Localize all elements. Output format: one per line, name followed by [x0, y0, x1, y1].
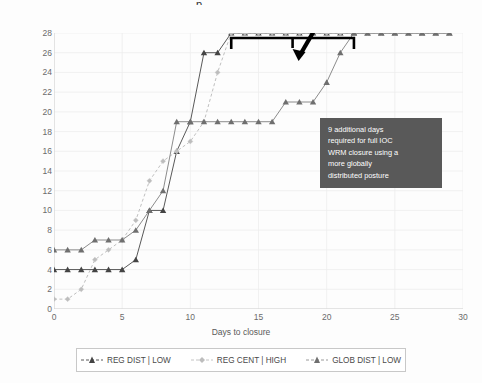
y-axis-tick: 8: [30, 226, 52, 234]
x-axis-tick: 15: [244, 313, 274, 322]
x-axis-tick: 5: [107, 313, 137, 322]
annotation-line-4: distributed posture: [328, 170, 434, 181]
x-axis-tick: 25: [380, 313, 410, 322]
y-axis-tick: 16: [30, 147, 52, 155]
x-axis-title: Days to closure: [0, 327, 482, 337]
data-point-marker: [65, 297, 70, 302]
chart-canvas: p 0246810121416182022242628 Number of ba…: [0, 0, 482, 383]
x-axis-tick: 10: [175, 313, 205, 322]
data-point-marker: [215, 70, 220, 75]
y-axis-tick: 14: [30, 167, 52, 175]
y-axis-tick: 6: [30, 246, 52, 254]
cropped-title: p: [196, 0, 206, 5]
annotation-line-1: required for full IOC: [328, 135, 434, 146]
data-point-marker: [54, 297, 57, 302]
legend-item-reg-dist-low[interactable]: REG DIST | LOW: [81, 355, 171, 365]
annotation-bracket: [231, 38, 354, 49]
annotation-line-2: WRM closure using a: [328, 147, 434, 158]
annotation-line-0: 9 additional days: [328, 124, 434, 135]
annotation-callout: 9 additional days required for full IOC …: [320, 118, 442, 188]
y-axis-tick: 4: [30, 266, 52, 274]
y-axis-tick: 18: [30, 128, 52, 136]
y-axis-tick: 0: [30, 305, 52, 313]
data-point-marker: [133, 218, 138, 223]
x-axis-tick: 20: [312, 313, 342, 322]
y-axis-tick: 22: [30, 88, 52, 96]
legend-marker-icon: [81, 355, 103, 365]
data-point-marker: [323, 79, 329, 85]
legend-marker-icon: [306, 355, 328, 365]
y-axis-tick: 20: [30, 108, 52, 116]
y-axis-tick: 26: [30, 49, 52, 57]
legend-item-glob-dist-low[interactable]: GLOB DIST | LOW: [306, 355, 401, 365]
legend-label: REG DIST | LOW: [107, 356, 171, 365]
legend-label: REG CENT | HIGH: [217, 356, 286, 365]
annotation-line-3: more globally: [328, 158, 434, 169]
legend-marker-icon: [191, 355, 213, 365]
legend-label: GLOB DIST | LOW: [332, 356, 401, 365]
y-axis-tick: 28: [30, 29, 52, 37]
y-axis-tick: 2: [30, 285, 52, 293]
y-axis-tick: 24: [30, 68, 52, 76]
x-axis-tick: 30: [448, 313, 478, 322]
y-axis-tick: 12: [30, 187, 52, 195]
legend-item-reg-cent-high[interactable]: REG CENT | HIGH: [191, 355, 286, 365]
y-axis-tick: 10: [30, 206, 52, 214]
x-axis-tick-labels: 051015202530: [0, 313, 482, 327]
x-axis-tick: 0: [39, 313, 69, 322]
chart-legend: REG DIST | LOW REG CENT | HIGH GLOB DIST…: [76, 348, 406, 372]
data-point-marker: [133, 257, 139, 263]
